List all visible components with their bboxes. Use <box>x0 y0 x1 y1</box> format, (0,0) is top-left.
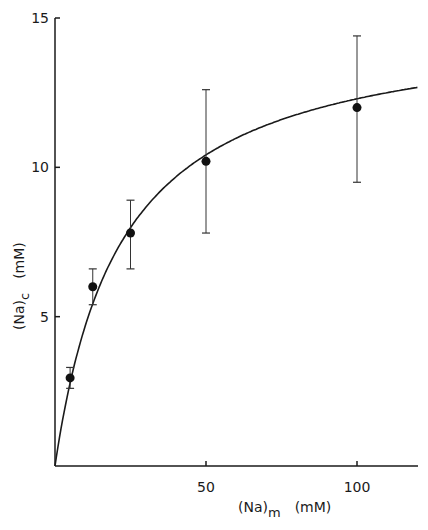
fitted-curve <box>55 87 417 466</box>
marker <box>126 229 135 238</box>
axes <box>55 18 418 466</box>
y-tick-label: 10 <box>31 159 49 175</box>
y-tick-label: 5 <box>40 309 49 325</box>
data-point <box>88 269 97 305</box>
data-point <box>353 36 362 182</box>
x-axis-label: (Na)m(mM) <box>238 499 331 520</box>
marker <box>353 103 362 112</box>
x-tick-label: 50 <box>197 479 215 495</box>
data-point <box>202 90 211 233</box>
marker <box>66 373 75 382</box>
marker <box>202 157 211 166</box>
x-tick-label: 100 <box>344 479 371 495</box>
data-points <box>66 36 362 388</box>
marker <box>88 282 97 291</box>
data-point <box>126 200 135 269</box>
saturation-chart: 51015 50100 (Na)m(mM) (Na)c(mM) <box>0 0 428 530</box>
y-axis-label: (Na)c(mM) <box>11 242 32 330</box>
y-tick-label: 15 <box>31 10 49 26</box>
